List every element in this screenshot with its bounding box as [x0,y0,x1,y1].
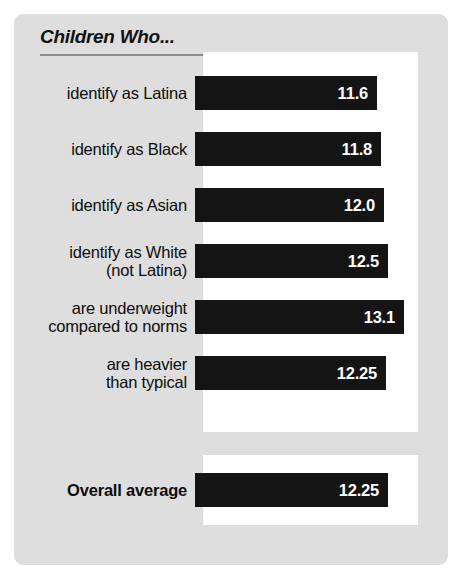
bar-label: are underweight compared to norms [14,299,195,335]
chart-card: Children Who... identify as Latina 11.6 … [14,14,448,565]
bar-value: 13.1 [364,308,395,327]
title-underline-rule [40,54,216,56]
bar-label: identify as Latina [14,84,195,102]
bar-label: identify as Asian [14,196,195,214]
bar-zone: 13.1 [195,300,448,334]
bar[interactable]: 12.5 [195,244,388,278]
bar-label: are heavier than typical [14,355,195,391]
bar-label: identify as Black [14,140,195,158]
bar-value: 11.8 [342,140,372,159]
bar[interactable]: 11.8 [195,132,381,166]
bar[interactable]: 11.6 [195,76,377,110]
bar-label: identify as White (not Latina) [14,243,195,279]
bar-value: 11.6 [338,84,368,103]
bar-zone: 11.6 [195,76,448,110]
bar-zone: 12.25 [195,473,448,507]
bar-value: 12.25 [337,364,377,383]
bar-value: 12.5 [348,252,379,271]
chart-row: identify as White (not Latina) 12.5 [14,244,448,278]
chart-row: identify as Latina 11.6 [14,76,448,110]
bar-zone: 12.25 [195,356,448,390]
bar[interactable]: 13.1 [195,300,404,334]
bar-zone: 12.5 [195,244,448,278]
bar-value: 12.0 [344,196,375,215]
chart-row: identify as Black 11.8 [14,132,448,166]
bar[interactable]: 12.0 [195,188,384,222]
chart-title: Children Who... [40,26,216,48]
chart-row-overall-average: Overall average 12.25 [14,473,448,507]
chart-row: are underweight compared to norms 13.1 [14,300,448,334]
bar[interactable]: 12.25 [195,356,386,390]
title-block: Children Who... [40,26,216,56]
chart-row: are heavier than typical 12.25 [14,356,448,390]
bar-zone: 11.8 [195,132,448,166]
bar-zone: 12.0 [195,188,448,222]
overall-average-bar[interactable]: 12.25 [195,473,388,507]
chart-row: identify as Asian 12.0 [14,188,448,222]
bar-value: 12.25 [339,481,379,500]
overall-average-label: Overall average [14,481,195,499]
